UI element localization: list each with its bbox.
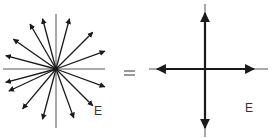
polarization-diagram: E E bbox=[0, 0, 272, 138]
resolved-components-diagram: E bbox=[149, 4, 268, 137]
field-label-right: E bbox=[245, 101, 253, 115]
field-vector bbox=[56, 69, 105, 87]
field-vector bbox=[6, 56, 56, 69]
field-label-left: E bbox=[94, 104, 102, 118]
unpolarized-field-diagram: E bbox=[3, 14, 105, 128]
equals-sign bbox=[124, 71, 135, 75]
field-vector bbox=[30, 24, 56, 69]
field-vector bbox=[56, 69, 93, 106]
field-vector bbox=[56, 69, 74, 118]
field-vector bbox=[56, 51, 105, 69]
